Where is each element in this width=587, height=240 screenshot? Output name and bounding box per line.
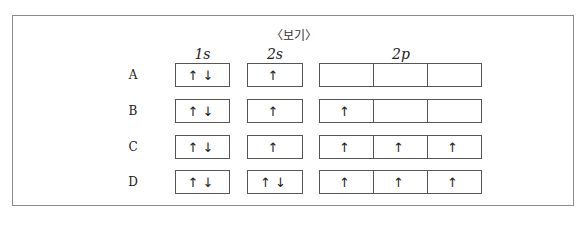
orbital-2p-c-3: ↑ <box>427 135 482 159</box>
orbital-2p-b-2 <box>373 99 428 123</box>
row-label-a: A <box>126 68 140 82</box>
orbital-1s-c: ↑↓ <box>175 135 230 159</box>
orbital-1s-b: ↑↓ <box>175 99 230 123</box>
orbital-2p-b-1: ↑ <box>319 99 374 123</box>
header-2p: 2p <box>319 46 483 62</box>
orbital-2p-c: ↑ ↑ ↑ <box>319 135 482 159</box>
orbital-2p-d: ↑ ↑ ↑ <box>319 170 482 194</box>
row-label-b: B <box>126 104 140 118</box>
orbital-2p-c-2: ↑ <box>373 135 428 159</box>
header-2s: 2s <box>247 46 303 62</box>
orbital-2p-a <box>319 63 482 87</box>
orbital-2s-c: ↑ <box>247 135 303 159</box>
row-label-c: C <box>126 140 140 154</box>
header-2p-text: 2p <box>392 46 410 62</box>
orbital-2p-a-2 <box>373 63 428 87</box>
orbital-2p-b: ↑ <box>319 99 482 123</box>
orbital-2p-c-1: ↑ <box>319 135 374 159</box>
orbital-2s-d: ↑↓ <box>247 170 303 194</box>
header-1s-text: 1s <box>194 46 210 62</box>
example-title: 〈보기〉 <box>0 26 587 43</box>
row-label-d: D <box>126 175 140 189</box>
orbital-2p-d-2: ↑ <box>373 170 428 194</box>
orbital-1s-a: ↑↓ <box>175 63 230 87</box>
orbital-2p-d-1: ↑ <box>319 170 374 194</box>
orbital-2s-b: ↑ <box>247 99 303 123</box>
orbital-2p-a-1 <box>319 63 374 87</box>
header-2s-text: 2s <box>267 46 283 62</box>
orbital-1s-d: ↑↓ <box>175 170 230 194</box>
orbital-2p-a-3 <box>427 63 482 87</box>
orbital-2s-a: ↑ <box>247 63 303 87</box>
orbital-2p-b-3 <box>427 99 482 123</box>
header-1s: 1s <box>175 46 230 62</box>
orbital-2p-d-3: ↑ <box>427 170 482 194</box>
